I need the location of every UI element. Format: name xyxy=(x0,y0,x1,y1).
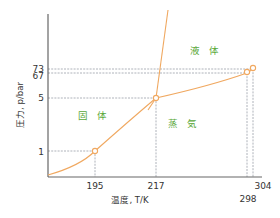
melting-curve xyxy=(156,10,168,98)
guide-lines xyxy=(48,69,253,177)
x-tick-217: 217 xyxy=(147,181,164,191)
point-298-67 xyxy=(244,69,249,74)
x-tick-195: 195 xyxy=(86,181,103,191)
phase-curves xyxy=(48,10,253,175)
liquid-label: 液 体 xyxy=(190,45,222,56)
phase-diagram-chart: 73 67 5 1 195 217 304 298 温度, T/K 圧力, p/… xyxy=(0,0,280,218)
y-tick-5: 5 xyxy=(38,93,44,103)
x-axis-label: 温度, T/K xyxy=(111,195,148,205)
triple-point xyxy=(153,95,158,100)
x-tick-298: 298 xyxy=(239,194,256,204)
x-tick-304: 304 xyxy=(254,181,271,191)
y-tick-1: 1 xyxy=(38,147,44,157)
solid-label: 固 体 xyxy=(78,110,110,121)
vapor-label: 蒸 気 xyxy=(168,118,200,129)
critical-point xyxy=(250,65,255,70)
y-axis-label: 圧力, p/bar xyxy=(15,82,25,128)
point-195-1 xyxy=(92,148,97,153)
y-tick-67: 67 xyxy=(33,71,44,81)
